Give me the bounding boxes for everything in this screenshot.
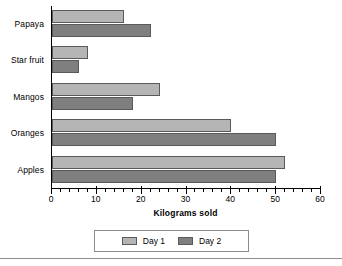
legend-item-day-2: Day 2 [178, 237, 221, 246]
bar [52, 156, 285, 169]
x-tick-label: 60 [315, 194, 324, 205]
category-label: Star fruit [0, 42, 48, 78]
x-axis-title: Kilograms sold [51, 208, 320, 218]
x-tick-inner [230, 186, 231, 190]
x-tick-inner [141, 186, 142, 190]
legend-item-day-1: Day 1 [122, 237, 165, 246]
x-tick-inner [320, 186, 321, 190]
bar [52, 83, 160, 96]
chart-legend: Day 1 Day 2 [94, 230, 249, 252]
x-tick-inner [96, 186, 97, 190]
x-tick-label: 40 [226, 194, 235, 205]
x-tick-label: 50 [270, 194, 279, 205]
x-tick-label: 10 [91, 194, 100, 205]
bar-group [52, 152, 321, 188]
x-tick-label: 20 [136, 194, 145, 205]
x-tick-inner [275, 186, 276, 190]
bar [52, 133, 276, 146]
plot-wrapper: Papaya Star fruit Mangos Oranges Apples [0, 0, 342, 200]
plot-area [51, 6, 321, 188]
bar-group [52, 79, 321, 115]
bar-group [52, 42, 321, 78]
page-divider [0, 258, 342, 259]
bar [52, 170, 276, 183]
legend-swatch-icon [178, 237, 193, 245]
bar-group [52, 6, 321, 42]
x-tick-label: 30 [181, 194, 190, 205]
category-label: Mangos [0, 79, 48, 115]
category-label: Oranges [0, 115, 48, 151]
x-tick [320, 189, 321, 194]
bar [52, 24, 151, 37]
bar [52, 10, 124, 23]
category-axis-labels: Papaya Star fruit Mangos Oranges Apples [0, 6, 48, 188]
bar [52, 46, 88, 59]
legend-swatch-icon [122, 237, 137, 245]
category-label: Apples [0, 152, 48, 188]
bar [52, 119, 231, 132]
x-tick [51, 189, 52, 194]
x-tick [275, 189, 276, 194]
bar [52, 97, 133, 110]
bar [52, 60, 79, 73]
x-axis-tick-labels: 0102030405060 [51, 194, 320, 206]
legend-label: Day 2 [199, 237, 221, 246]
bar-chart: Papaya Star fruit Mangos Oranges Apples … [0, 0, 342, 266]
x-tick [96, 189, 97, 194]
x-tick-label: 0 [49, 194, 54, 205]
x-tick-inner [51, 186, 52, 190]
x-tick [141, 189, 142, 194]
bar-group [52, 115, 321, 151]
category-label: Papaya [0, 6, 48, 42]
legend-label: Day 1 [143, 237, 165, 246]
x-tick-inner [186, 186, 187, 190]
x-tick [230, 189, 231, 194]
x-tick [186, 189, 187, 194]
